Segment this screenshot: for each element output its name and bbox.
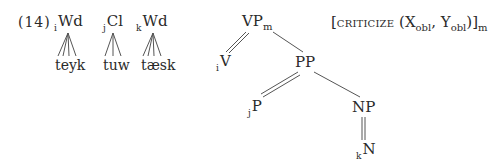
semantic-representation: [criticize (Xobl, Yobl)]m: [331, 15, 487, 30]
index-j: j: [103, 23, 106, 33]
node-vp: VPm: [242, 14, 272, 29]
node-n: kN: [356, 142, 376, 157]
fan-cl-j: [105, 33, 121, 56]
lexical-item-i-category: iWd: [54, 14, 83, 29]
lexical-item-i-form: teyk: [55, 58, 85, 72]
fan-wd-i: [58, 33, 76, 56]
example-number: (14): [18, 15, 51, 29]
node-p: jP: [248, 99, 262, 114]
lexical-item-j-category: jCl: [103, 14, 123, 29]
index-k: k: [136, 23, 141, 33]
lexical-item-j-form: tuw: [103, 58, 130, 72]
lexical-item-k-category: kWd: [136, 14, 168, 29]
predicate: criticize: [337, 14, 394, 30]
fan-wd-k: [143, 33, 161, 56]
node-pp: PP: [295, 55, 315, 70]
node-v: iV: [216, 54, 231, 69]
lexical-item-k-form: tæsk: [141, 58, 175, 72]
index-i: i: [54, 23, 57, 33]
node-np: NP: [352, 100, 375, 115]
